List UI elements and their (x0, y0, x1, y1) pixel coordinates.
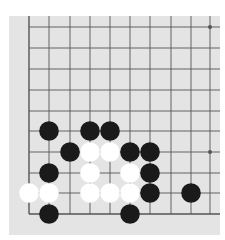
black-stone (39, 204, 59, 224)
black-stone (100, 121, 120, 141)
black-stone (39, 121, 59, 141)
black-stone (140, 163, 160, 183)
white-stone (80, 163, 100, 183)
black-stone (140, 183, 160, 203)
black-stone (120, 142, 140, 162)
white-stone (80, 142, 100, 162)
white-stone (39, 183, 59, 203)
black-stone (39, 163, 59, 183)
black-stone (60, 142, 80, 162)
black-stone (181, 183, 201, 203)
black-stone (140, 142, 160, 162)
black-stone (120, 204, 140, 224)
white-stone (19, 183, 39, 203)
go-board[interactable] (9, 16, 220, 235)
board-grid[interactable] (9, 16, 220, 235)
white-stone (120, 183, 140, 203)
white-stone (100, 183, 120, 203)
white-stone (120, 163, 140, 183)
star-point-icon (208, 25, 212, 29)
black-stone (80, 121, 100, 141)
white-stone (80, 183, 100, 203)
white-stone (100, 142, 120, 162)
star-point-icon (208, 150, 212, 154)
